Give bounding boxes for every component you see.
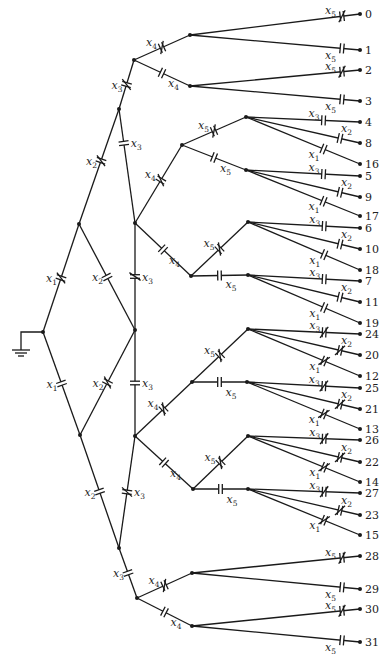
capacitor-icon xyxy=(321,169,325,179)
output-label-x2: x2 xyxy=(341,494,352,509)
capacitor-icon xyxy=(320,196,327,207)
capacitor-icon xyxy=(121,79,132,90)
capacitor-icon xyxy=(156,174,166,186)
capacitor-icon xyxy=(320,144,327,155)
junction-node xyxy=(190,624,194,628)
junction-node xyxy=(191,487,195,491)
capacitor-icon xyxy=(158,41,165,54)
terminal-dot xyxy=(358,247,362,251)
capacitor-icon xyxy=(96,155,107,166)
junction-node xyxy=(117,107,121,111)
edge-label-x2: x2 xyxy=(85,486,96,501)
output-label-x2: x2 xyxy=(341,122,352,137)
terminal-dot xyxy=(358,386,362,390)
capacitor-icon xyxy=(318,409,329,420)
terminal-dot xyxy=(358,374,362,378)
edge-c1-e6: x5 xyxy=(193,436,248,489)
capacitor-icon xyxy=(322,221,326,231)
edge-label-x3: x3 xyxy=(113,567,124,582)
terminal-dot xyxy=(358,12,362,16)
junction-nodes xyxy=(41,33,250,628)
edge-P2-c1: x4 xyxy=(135,436,193,489)
edge-label-x5: x5 xyxy=(226,278,237,293)
output-label-x2: x2 xyxy=(341,176,352,191)
terminal-number: 4 xyxy=(365,116,372,129)
capacitor-icon xyxy=(158,68,165,79)
edge-U1-U2: x2 xyxy=(79,109,119,224)
edge-L1-M: x2 xyxy=(80,330,135,435)
terminal-dot xyxy=(358,268,362,272)
terminal-dot xyxy=(358,48,362,52)
terminal-dot xyxy=(358,640,362,644)
terminal-number: 31 xyxy=(365,636,379,649)
output-0: x50 xyxy=(190,4,372,35)
terminal-dot xyxy=(358,480,362,484)
output-2: x52 xyxy=(190,60,372,86)
terminal-number: 20 xyxy=(365,349,379,362)
terminal-number: 6 xyxy=(365,222,372,235)
output-label-x3: x3 xyxy=(309,213,320,228)
decoder-tree-diagram: x1x1x2x2x2x2x3x3x3x3x3x3x4x4x4x4x4x4x4x4… xyxy=(0,0,390,655)
capacitor-icon xyxy=(123,570,134,577)
terminal-dot xyxy=(358,438,362,442)
terminal-number: 8 xyxy=(365,137,372,150)
output-7: x37 xyxy=(248,266,372,288)
terminal-dot xyxy=(358,460,362,464)
edge-label-x1: x1 xyxy=(46,272,57,287)
terminal-number: 11 xyxy=(365,296,379,309)
edge-R-L1: x1 xyxy=(43,332,80,435)
terminal-number: 21 xyxy=(365,403,379,416)
edge-M-P1: x3 xyxy=(129,223,153,330)
edge-b0-e1: x5 xyxy=(182,145,246,177)
edge-label-x2: x2 xyxy=(92,271,103,286)
junction-node xyxy=(133,221,137,225)
output-5: x35 xyxy=(246,161,372,183)
output-label-x1: x1 xyxy=(309,519,320,534)
output-29: x529 xyxy=(192,573,379,603)
edge-L2-B: x3 xyxy=(113,548,137,598)
capacitor-icon xyxy=(218,377,222,387)
terminal-number: 25 xyxy=(365,382,379,395)
edge-label-x4: x4 xyxy=(168,77,179,92)
junction-node xyxy=(245,380,249,384)
capacitor-icon xyxy=(102,376,113,388)
edge-T-a1: x4 xyxy=(134,60,190,92)
terminal-dot xyxy=(358,141,362,145)
terminal-dot xyxy=(358,353,362,357)
output-label-x5: x5 xyxy=(325,546,336,561)
capacitor-icon xyxy=(102,273,113,281)
edge-b1-e3: x5 xyxy=(191,270,248,292)
edge-L1-L2: x2 xyxy=(80,435,119,548)
terminal-dot xyxy=(358,491,362,495)
terminal-dot xyxy=(358,321,362,325)
capacitor-icon xyxy=(130,381,140,385)
edge-T-a0: x4 xyxy=(134,35,190,60)
edge-label-x1: x1 xyxy=(47,378,58,393)
capacitor-icon xyxy=(339,605,346,617)
junction-node xyxy=(246,220,250,224)
output-label-x3: x3 xyxy=(309,107,320,122)
terminal-number: 1 xyxy=(365,44,372,57)
junction-node xyxy=(188,33,192,37)
junction-node xyxy=(133,434,137,438)
edge-label-x4: x4 xyxy=(146,36,157,51)
output-6: x36 xyxy=(248,213,372,235)
capacitor-icon xyxy=(339,66,346,78)
output-terminals: x50x51x52x53x34x28x116x35x29x117x36x210x… xyxy=(190,4,379,655)
terminal-dot xyxy=(358,332,362,336)
capacitor-icon xyxy=(322,274,326,284)
capacitor-icon xyxy=(159,402,168,415)
edge-label-x5: x5 xyxy=(227,493,238,508)
capacitor-icon xyxy=(318,515,329,526)
edge-B-d0: x4 xyxy=(137,573,192,598)
terminal-dot xyxy=(358,195,362,199)
capacitor-icon xyxy=(161,607,169,618)
output-label-x2: x2 xyxy=(341,441,352,456)
capacitor-icon xyxy=(340,94,344,104)
capacitor-icon xyxy=(218,270,222,280)
edge-label-x4: x4 xyxy=(148,397,159,412)
terminal-dot xyxy=(358,533,362,537)
capacitor-icon xyxy=(216,456,226,469)
terminal-number: 28 xyxy=(365,550,379,563)
terminal-dot xyxy=(358,279,362,283)
